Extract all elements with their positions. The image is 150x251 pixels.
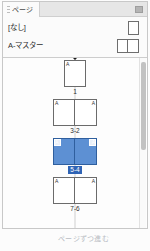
panel-menu-icon[interactable] — [135, 6, 143, 13]
master-page-thumb — [128, 21, 139, 35]
page-master-tag: A — [66, 61, 69, 67]
page-thumbnail[interactable]: A — [53, 177, 75, 204]
tab-pages-label: ページ — [12, 6, 33, 13]
master-thumbnail[interactable] — [117, 39, 139, 53]
spread-label: 1 — [71, 88, 79, 96]
pages-panel-screen: ページ [なし] A-マスター — [0, 0, 150, 251]
page-master-tag: A — [92, 139, 95, 145]
pages-thumbnail-area[interactable]: A 1 A A 3-2 — [3, 58, 147, 228]
master-item-none[interactable]: [なし] — [3, 19, 147, 37]
page-thumbnail[interactable]: A — [53, 138, 75, 165]
spread-thumbs[interactable]: A A — [53, 138, 97, 165]
tab-grip-icon — [7, 6, 10, 13]
page-master-tag: A — [55, 139, 58, 145]
page-thumbnail[interactable]: A — [64, 60, 86, 87]
spread-list: A 1 A A 3-2 — [3, 60, 147, 216]
page-master-tag: A — [55, 100, 58, 106]
page-thumbnail[interactable]: A — [75, 99, 97, 126]
master-page-thumb — [128, 39, 139, 53]
page-master-tag: A — [92, 178, 95, 184]
spread-item[interactable]: A A 3-2 — [53, 99, 97, 135]
master-pages-list: [なし] A-マスター — [3, 17, 147, 58]
background-caption-text: ページずつ進む — [58, 233, 109, 243]
tab-pages[interactable]: ページ — [3, 2, 40, 17]
page-thumbnail[interactable]: A — [75, 138, 97, 165]
page-master-tag: A — [55, 178, 58, 184]
page-master-tag: A — [92, 100, 95, 106]
spread-label: 3-2 — [68, 127, 81, 135]
spread-label-selected: 5-4 — [68, 166, 81, 174]
scrollbar-thumb[interactable] — [141, 62, 146, 150]
master-item-label: A-マスター — [8, 42, 43, 50]
panel-tabbar: ページ — [3, 2, 147, 17]
spread-thumbs[interactable]: A — [64, 60, 86, 87]
spread-thumbs[interactable]: A A — [53, 177, 97, 204]
vertical-scrollbar[interactable] — [139, 58, 146, 228]
pages-panel: ページ [なし] A-マスター — [2, 1, 148, 229]
master-page-thumb — [117, 39, 128, 53]
master-thumbnail[interactable] — [128, 21, 139, 35]
spread-item[interactable]: A 1 — [64, 60, 86, 96]
page-thumbnail[interactable]: A — [53, 99, 75, 126]
spread-item[interactable]: A A 7-6 — [53, 177, 97, 213]
master-item-a-master[interactable]: A-マスター — [3, 37, 147, 55]
spread-thumbs[interactable]: A A — [53, 99, 97, 126]
spread-item-selected[interactable]: A A 5-4 — [53, 138, 97, 174]
master-item-label: [なし] — [8, 24, 26, 32]
page-thumbnail[interactable]: A — [75, 177, 97, 204]
spread-label: 7-6 — [68, 205, 81, 213]
